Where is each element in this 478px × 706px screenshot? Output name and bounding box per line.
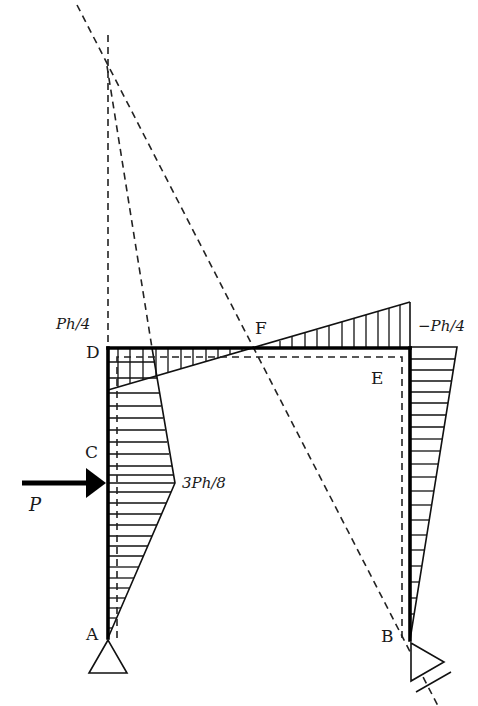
- right-column-moment-diagram: [410, 347, 457, 640]
- pin-support-A: [89, 640, 127, 673]
- moment-label-E: −Ph/4: [418, 317, 465, 335]
- node-label-D: D: [86, 342, 100, 362]
- node-label-F: F: [255, 318, 267, 338]
- instant-center-line-left: [107, 66, 152, 348]
- arrow-head-icon: [86, 468, 106, 498]
- frame-diagram: D C A B E F P Ph/4 −Ph/4 3Ph/8: [0, 0, 478, 706]
- node-label-B: B: [381, 626, 394, 646]
- moment-label-max: 3Ph/8: [182, 474, 226, 492]
- roller-support-icon: [411, 643, 444, 681]
- left-column-moment-diagram: [108, 348, 175, 638]
- moment-label-D: Ph/4: [55, 315, 90, 333]
- roller-support-B: [411, 643, 451, 692]
- beam-moment-diagram: [108, 302, 410, 390]
- diagonal-instant-center-line: [77, 5, 438, 706]
- frame-members: [108, 348, 410, 640]
- node-label-E: E: [371, 368, 383, 388]
- node-label-C: C: [85, 442, 98, 462]
- load-label-P: P: [28, 494, 42, 515]
- pin-support-icon: [89, 640, 127, 673]
- deformed-shape: [117, 357, 402, 638]
- node-label-A: A: [85, 624, 99, 644]
- dashed-construction-lines: [77, 5, 438, 706]
